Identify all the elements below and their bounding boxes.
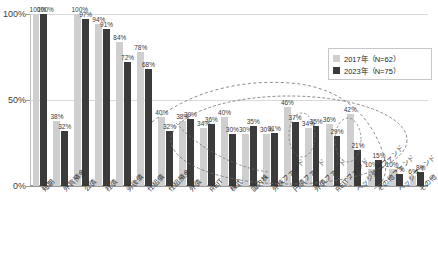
bar-2017: [53, 121, 60, 186]
bar-2023: [82, 19, 89, 186]
bar-group: 100%97%: [72, 14, 93, 186]
legend-item-2017: 2017年（N=62）: [333, 52, 427, 64]
legend-swatch-2023: [333, 67, 340, 74]
bar-2023: [229, 134, 236, 186]
data-label: 35%: [247, 118, 260, 125]
data-label: 40%: [218, 109, 231, 116]
y-tick-mark: [26, 186, 30, 187]
data-label: 100%: [37, 6, 50, 13]
data-label: 32%: [58, 123, 71, 130]
data-label: 21%: [351, 142, 364, 149]
bar-group: 100%100%: [30, 14, 51, 186]
bar-group: 38%32%: [51, 14, 72, 186]
data-label: 72%: [121, 54, 134, 61]
bar-group: 94%91%: [93, 14, 114, 186]
y-tick-label: 0%: [2, 182, 26, 191]
bar-2017: [95, 24, 102, 186]
bar-2017: [33, 14, 40, 186]
bar-group: 30%31%: [260, 14, 281, 186]
data-label: 68%: [142, 61, 155, 68]
bar-2023: [166, 131, 173, 186]
legend-label-2023: 2023年（N=75）: [344, 65, 400, 76]
data-label: 40%: [155, 109, 168, 116]
data-label: 39%: [184, 111, 197, 118]
data-label: 38%: [50, 113, 63, 120]
bar-group: 30%35%: [239, 14, 260, 186]
data-label: 37%: [289, 114, 302, 121]
legend-label-2017: 2017年（N=62）: [344, 53, 400, 64]
data-label: 36%: [205, 116, 218, 123]
data-label: 97%: [79, 11, 92, 18]
bar-2023: [208, 124, 215, 186]
legend-item-2023: 2023年（N=75）: [333, 64, 427, 76]
y-tick-label: 50%: [2, 96, 26, 105]
bar-2017: [74, 14, 81, 186]
data-label: 78%: [134, 44, 147, 51]
bar-group: 34%36%: [198, 14, 219, 186]
bar-2017: [137, 52, 144, 186]
legend-swatch-2017: [333, 55, 340, 62]
bar-2023: [61, 131, 68, 186]
bar-2023: [271, 133, 278, 186]
data-label: 32%: [163, 123, 176, 130]
bar-2023: [145, 69, 152, 186]
bar-2023: [40, 14, 47, 186]
data-label: 36%: [323, 116, 336, 123]
bar-2023: [250, 126, 257, 186]
bar-group: 38%39%: [177, 14, 198, 186]
data-label: 91%: [100, 21, 113, 28]
data-label: 29%: [331, 128, 344, 135]
bar-group: 84%72%: [114, 14, 135, 186]
bar-2017: [116, 42, 123, 186]
data-label: 46%: [281, 99, 294, 106]
y-tick-label: 100%: [2, 10, 26, 19]
bar-2017: [200, 128, 207, 186]
legend: 2017年（N=62） 2023年（N=75）: [328, 48, 432, 80]
data-label: 35%: [310, 118, 323, 125]
data-label: 42%: [344, 106, 357, 113]
data-label: 30%: [226, 126, 239, 133]
data-label: 31%: [268, 125, 281, 132]
bar-2023: [103, 29, 110, 186]
x-axis-labels: 短期外貨預金公債社債劣後債仕組債仕組預金外債REIT株式国内株外株ファンド円債フ…: [30, 188, 428, 258]
bar-group: 40%30%: [219, 14, 240, 186]
bar-group: 40%32%: [156, 14, 177, 186]
data-label: 84%: [113, 34, 126, 41]
bar-group: 78%68%: [135, 14, 156, 186]
bar-2017: [242, 134, 249, 186]
bar-2023: [124, 62, 131, 186]
